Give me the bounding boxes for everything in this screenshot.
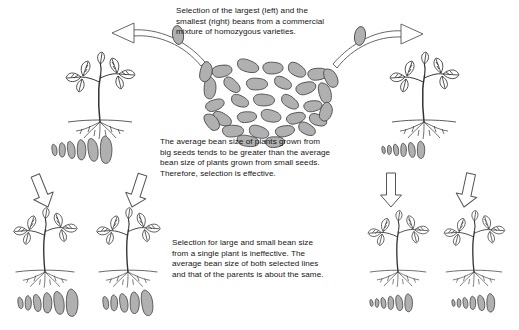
- row-bean: [103, 296, 109, 309]
- row-bean: [381, 297, 386, 308]
- row-bean: [486, 293, 495, 312]
- row-bean: [53, 291, 64, 315]
- row-bean: [67, 141, 76, 159]
- large-parent-bean-row: [52, 136, 113, 164]
- row-bean: [400, 143, 407, 157]
- row-bean: [77, 140, 87, 161]
- large-line-selected-small-bean-row: [18, 289, 79, 317]
- row-bean: [99, 136, 113, 164]
- row-bean: [404, 294, 413, 312]
- row-bean: [87, 138, 98, 162]
- row-bean: [470, 296, 477, 310]
- row-bean: [452, 299, 455, 306]
- small-line-selected-small-bean-row: [370, 294, 413, 312]
- caption-top-selection: Selection of the largest (left) and the …: [176, 6, 406, 38]
- row-bean: [408, 142, 415, 157]
- caption-bottom-ineffective-selection: Selection for large and small bean size …: [172, 238, 402, 280]
- caption-middle-effective-selection: The average bean size of plants grown fr…: [160, 137, 395, 179]
- row-bean: [395, 295, 403, 311]
- row-bean: [417, 141, 426, 159]
- row-bean: [370, 299, 373, 306]
- large-line-selected-large-bean-row: [103, 290, 154, 316]
- row-bean: [119, 293, 128, 312]
- row-bean: [52, 144, 58, 156]
- row-bean: [463, 297, 468, 308]
- row-bean: [129, 292, 140, 314]
- row-bean: [43, 293, 53, 314]
- row-bean: [388, 296, 395, 310]
- row-bean: [110, 295, 118, 311]
- row-bean: [141, 290, 154, 316]
- row-bean: [59, 143, 66, 158]
- row-bean: [18, 297, 24, 309]
- row-bean: [33, 294, 42, 312]
- small-line-selected-large-bean-row: [452, 293, 496, 312]
- row-bean: [375, 299, 379, 308]
- row-bean: [25, 296, 32, 311]
- bean-selection-diagram: Selection of the largest (left) and the …: [0, 0, 519, 330]
- row-bean: [65, 289, 79, 317]
- row-bean: [477, 295, 485, 311]
- row-bean: [457, 299, 461, 308]
